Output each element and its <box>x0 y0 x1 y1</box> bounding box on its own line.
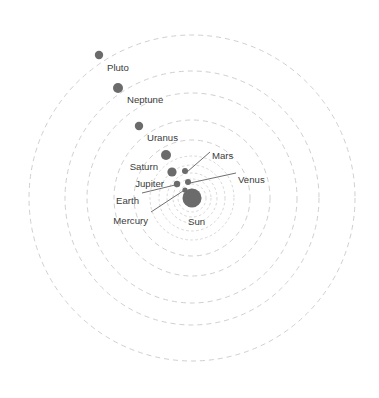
body-dot-neptune <box>113 83 123 93</box>
leader-line-venus <box>190 173 236 183</box>
body-dot-mars <box>182 168 188 174</box>
planet-label-jupiter: Jupiter <box>135 179 164 189</box>
body-dot-earth <box>174 181 180 187</box>
planet-label-mercury: Mercury <box>113 216 148 226</box>
planet-label-saturn: Saturn <box>130 162 158 172</box>
body-dot-venus <box>185 179 191 185</box>
planet-label-neptune: Neptune <box>127 95 163 105</box>
body-dot-sun <box>183 189 202 208</box>
leader-line-mars <box>187 152 210 172</box>
planet-label-uranus: Uranus <box>147 133 178 143</box>
planet-label-pluto: Pluto <box>107 63 129 73</box>
solar-system-figure: PlutoNeptuneUranusSaturnJupiterMarsVenus… <box>0 0 379 398</box>
body-dot-uranus <box>135 122 143 130</box>
body-dot-pluto <box>95 51 103 59</box>
planet-label-mars: Mars <box>212 151 233 161</box>
planet-label-sun: Sun <box>188 217 205 227</box>
planet-label-earth: Earth <box>116 196 139 206</box>
orbit-diagram-canvas <box>0 0 379 398</box>
body-dot-jupiter <box>167 167 176 176</box>
body-dot-saturn <box>161 150 171 160</box>
planet-label-venus: Venus <box>238 175 265 185</box>
